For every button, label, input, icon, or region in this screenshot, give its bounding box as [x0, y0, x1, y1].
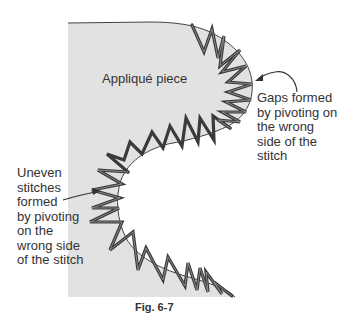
gaps-annotation-label: Gaps formed by pivoting on the wrong sid… — [257, 91, 337, 164]
uneven-stitches-annotation-label: Uneven stitches formed by pivoting on th… — [17, 166, 83, 268]
applique-piece-label: Appliqué piece — [102, 72, 187, 87]
gaps-callout-arrow — [255, 72, 297, 92]
figure-caption: Fig. 6-7 — [135, 301, 174, 313]
